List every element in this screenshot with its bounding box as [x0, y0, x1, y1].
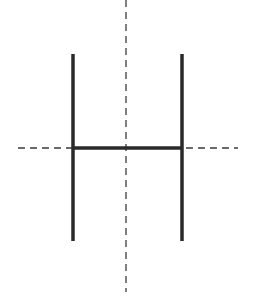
h-symmetry-diagram	[0, 0, 253, 303]
